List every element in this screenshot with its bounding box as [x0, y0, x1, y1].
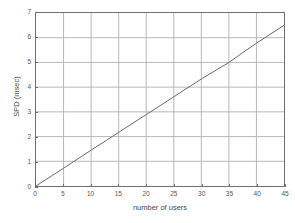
x-tick-mark	[285, 184, 286, 187]
y-tick-mark	[35, 137, 38, 138]
x-tick-mark	[146, 184, 147, 187]
y-tick-mark	[35, 37, 38, 38]
y-tick-label: 6	[19, 34, 31, 41]
x-tick-mark	[118, 184, 119, 187]
x-tick-label: 25	[170, 191, 177, 198]
y-tick-mark	[35, 187, 38, 188]
data-line-series-spd	[36, 13, 284, 186]
chart-container: 051015202530354045 01234567 number of us…	[0, 0, 295, 223]
y-tick-label: 5	[19, 59, 31, 66]
y-tick-mark	[35, 62, 38, 63]
x-tick-mark	[229, 184, 230, 187]
y-tick-label: 2	[19, 134, 31, 141]
x-tick-mark	[174, 184, 175, 187]
x-tick-label: 40	[254, 191, 261, 198]
x-tick-mark	[63, 184, 64, 187]
y-tick-label: 0	[19, 184, 31, 191]
x-axis-title: number of users	[35, 203, 285, 212]
y-tick-mark	[35, 162, 38, 163]
y-tick-mark	[35, 112, 38, 113]
x-tick-mark	[257, 184, 258, 187]
x-tick-label: 5	[61, 191, 65, 198]
x-tick-label: 10	[87, 191, 94, 198]
y-tick-mark	[35, 87, 38, 88]
y-axis-title: SPD (msec)	[12, 37, 21, 157]
y-tick-mark	[35, 12, 38, 13]
x-tick-label: 20	[142, 191, 149, 198]
plot-area	[35, 12, 285, 187]
y-tick-label: 1	[19, 159, 31, 166]
x-tick-label: 30	[198, 191, 205, 198]
y-tick-label: 4	[19, 84, 31, 91]
y-tick-label: 3	[19, 109, 31, 116]
x-tick-mark	[91, 184, 92, 187]
x-tick-label: 45	[281, 191, 288, 198]
x-tick-mark	[202, 184, 203, 187]
y-tick-label: 7	[19, 9, 31, 16]
x-tick-label: 35	[226, 191, 233, 198]
x-tick-label: 0	[33, 191, 37, 198]
x-tick-label: 15	[115, 191, 122, 198]
